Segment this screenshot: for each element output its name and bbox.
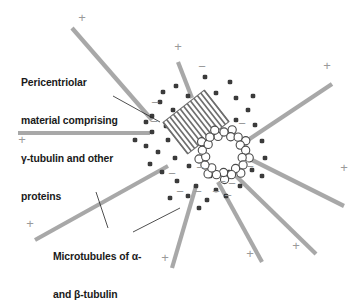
pcm-dot: [144, 120, 149, 125]
plus-end-sign: +: [323, 58, 331, 73]
plus-end-sign: +: [340, 160, 348, 175]
pcm-dot: [228, 80, 233, 85]
pcm-dot: [246, 108, 251, 113]
pcm-dot: [173, 156, 178, 161]
label-mt-line-2: and β-tubulin: [53, 289, 141, 302]
minus-end-sign: −: [194, 184, 202, 199]
pcm-dot: [205, 198, 210, 203]
mt-upper-right: [245, 84, 332, 142]
label-pcm-line-2: material comprising: [21, 115, 118, 128]
mt-right: [252, 160, 344, 206]
minus-end-sign: −: [238, 116, 246, 131]
pcm-dot: [253, 123, 258, 128]
pcm-dot: [187, 164, 192, 169]
pcm-dot: [203, 75, 208, 80]
minus-end-sign: −: [224, 188, 232, 203]
pcm-dot: [186, 94, 191, 99]
plus-end-sign: +: [78, 10, 86, 25]
minus-end-sign: −: [176, 184, 184, 199]
plus-end-sign: +: [246, 246, 254, 261]
pcm-dot: [186, 194, 191, 199]
centriole-subunit: [211, 126, 219, 134]
label-pcm-line-3: γ-tubulin and other: [21, 153, 118, 166]
minus-end-sign: −: [198, 59, 206, 74]
label-pcm-line-1: Pericentriolar: [21, 77, 118, 90]
label-pcm-line-4: proteins: [21, 191, 118, 204]
pcm-dot: [144, 144, 149, 149]
pcm-dot: [168, 196, 173, 201]
minus-end-sign: −: [242, 154, 250, 169]
centriole-longitudinal-body: [163, 90, 229, 154]
plus-end-sign: +: [292, 238, 300, 253]
pcm-dot: [234, 96, 239, 101]
pcm-dot: [166, 138, 171, 143]
plus-end-sign: +: [161, 250, 169, 265]
pcm-dot: [238, 184, 243, 189]
minus-end-sign: −: [151, 95, 159, 110]
pcm-dot: [251, 94, 256, 99]
pcm-dot: [161, 90, 166, 95]
pcm-dot: [171, 108, 176, 113]
plus-end-sign: +: [174, 39, 182, 54]
pcm-dot: [150, 130, 155, 135]
label-microtubules: Microtubules of α- and β-tubulin: [53, 226, 141, 304]
minus-end-sign: −: [168, 166, 176, 181]
label-mt-line-1: Microtubules of α-: [53, 251, 141, 264]
pcm-dot: [263, 156, 268, 161]
pcm-dot: [174, 84, 179, 89]
pcm-dot: [160, 170, 165, 175]
pcm-dot: [133, 138, 138, 143]
pcm-dot: [260, 139, 265, 144]
label-pericentriolar-material: Pericentriolar material comprising γ-tub…: [21, 52, 118, 228]
minus-end-sign: −: [218, 174, 226, 189]
minus-end-sign: −: [196, 160, 204, 175]
pcm-dot: [148, 162, 153, 167]
pcm-dot: [197, 206, 202, 211]
pcm-dot: [260, 174, 265, 179]
minus-end-sign: −: [150, 114, 158, 129]
pcm-dot: [156, 150, 161, 155]
centriole-subunit: [234, 133, 242, 141]
centriole-longitudinal: [163, 90, 229, 154]
pcm-dot: [214, 91, 219, 96]
mt-top-short: [178, 62, 192, 98]
